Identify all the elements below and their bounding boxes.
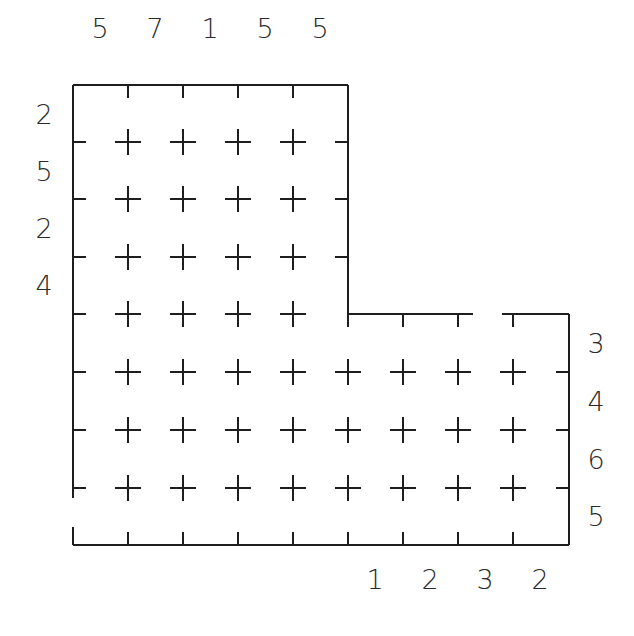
left-clue: 2 xyxy=(35,101,52,128)
bottom-clue: 3 xyxy=(476,566,493,593)
top-clue: 5 xyxy=(311,15,328,42)
puzzle-board xyxy=(0,0,634,636)
top-clue: 1 xyxy=(201,15,218,42)
right-clue: 4 xyxy=(587,388,604,415)
top-clue: 5 xyxy=(256,15,273,42)
bottom-clue: 1 xyxy=(366,566,383,593)
right-clue: 5 xyxy=(587,503,604,530)
top-clue: 7 xyxy=(146,15,163,42)
top-clue: 5 xyxy=(91,15,108,42)
left-clue: 4 xyxy=(35,272,52,299)
bottom-clue: 2 xyxy=(531,566,548,593)
bottom-clue: 2 xyxy=(421,566,438,593)
left-clue: 2 xyxy=(35,215,52,242)
right-clue: 3 xyxy=(587,330,604,357)
right-clue: 6 xyxy=(587,446,604,473)
left-clue: 5 xyxy=(35,158,52,185)
